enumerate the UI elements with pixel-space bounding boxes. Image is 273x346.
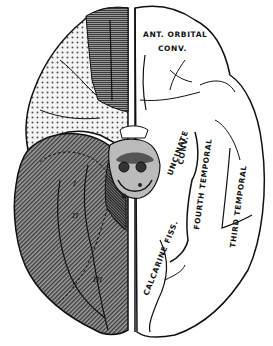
mammillary-body-icon (119, 162, 129, 172)
ant-orbital-label: ANT. ORBITAL (143, 30, 208, 39)
region-iii-label: III (92, 275, 103, 284)
region-ii-label: II (71, 211, 79, 220)
ant-orbital-label-line2: CONV. (158, 44, 187, 53)
mammillary-body-icon (136, 162, 146, 172)
brain-diagram: I II III ANT. ORBITAL CONV. UNCINATE CON… (0, 0, 273, 346)
